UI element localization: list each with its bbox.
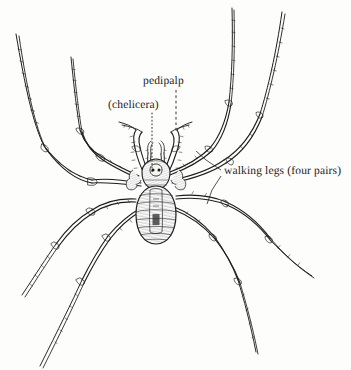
arachnid-illustration xyxy=(0,0,351,370)
label-pedipalp: pedipalp xyxy=(143,75,184,88)
walking-leg-right-1 xyxy=(172,12,285,183)
cephalothorax xyxy=(126,159,185,190)
walking-leg-right-4 xyxy=(172,206,258,354)
figure-plate: pedipalp (chelicera) walking legs (four … xyxy=(0,0,351,370)
walking-leg-left-2 xyxy=(71,57,139,179)
abdomen xyxy=(136,186,176,244)
walking-leg-left-4 xyxy=(40,208,141,368)
walking-leg-left-3 xyxy=(22,199,136,297)
walking-leg-right-2 xyxy=(170,8,235,175)
label-walking-legs: walking legs (four pairs) xyxy=(224,165,341,178)
label-chelicera: (chelicera) xyxy=(108,99,159,112)
walking-leg-right-3 xyxy=(176,192,314,279)
